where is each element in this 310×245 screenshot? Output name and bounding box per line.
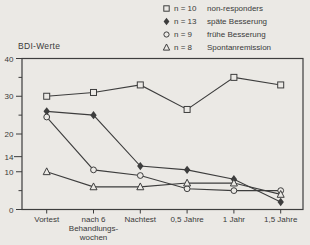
- x-tick-label: 1,5 Jahre: [264, 215, 298, 224]
- markers-sp-te-besserung: [44, 107, 284, 206]
- legend-item: n = 13 späte Besserung: [161, 15, 271, 28]
- y-axis: 40302014100: [5, 55, 22, 215]
- y-axis-title: BDI-Werte: [18, 41, 60, 51]
- open-circle-icon: [161, 29, 174, 40]
- series-non-responders: [47, 77, 281, 109]
- plot-frame: [22, 59, 303, 210]
- legend-item: n = 9 frühe Besserung: [161, 28, 271, 41]
- legend: n = 10 non-responders n = 13 späte Besse…: [161, 2, 271, 54]
- y-tick-label: 14: [5, 153, 14, 162]
- legend-count: n = 8: [174, 43, 207, 52]
- x-tick-label: 0,5 Jahre: [170, 215, 204, 224]
- x-tick-label: Behandlungs-: [69, 224, 119, 233]
- legend-count: n = 10: [174, 4, 207, 13]
- legend-count: n = 13: [174, 17, 207, 26]
- series-fr-he-besserung: [47, 117, 281, 191]
- legend-series-name: non-responders: [207, 4, 271, 13]
- x-tick-label: wochen: [79, 233, 108, 242]
- y-tick-label: 20: [5, 130, 14, 139]
- x-tick-label: nach 6: [81, 215, 106, 224]
- legend-series-name: frühe Besserung: [207, 30, 271, 39]
- x-axis: Vortestnach 6Behandlungs-wochenNachtest0…: [34, 210, 298, 242]
- y-tick-label: 40: [5, 55, 14, 64]
- x-tick-label: Vortest: [34, 215, 60, 224]
- figure: 40302014100Vortestnach 6Behandlungs-woch…: [0, 0, 310, 245]
- legend-item: n = 8 Spontanremission: [161, 41, 271, 54]
- y-tick-label: 30: [5, 92, 14, 101]
- x-tick-label: Nachtest: [125, 215, 157, 224]
- legend-item: n = 10 non-responders: [161, 2, 271, 15]
- x-tick-label: 1 Jahr: [223, 215, 246, 224]
- y-tick-label: 10: [5, 168, 14, 177]
- legend-series-name: späte Besserung: [207, 17, 271, 26]
- legend-series-name: Spontanremission: [207, 43, 271, 52]
- open-triangle-icon: [161, 42, 174, 53]
- legend-count: n = 9: [174, 30, 207, 39]
- filled-diamond-icon: [161, 16, 174, 27]
- y-tick-label: 0: [9, 206, 14, 215]
- open-square-icon: [161, 3, 174, 14]
